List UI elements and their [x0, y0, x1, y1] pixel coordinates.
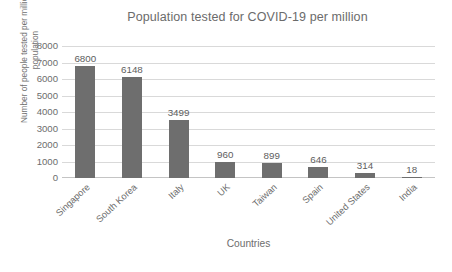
bar-value-label: 960	[217, 149, 233, 160]
bar-value-label: 314	[357, 160, 373, 171]
x-tick-label: Singapore	[54, 182, 92, 218]
x-label-slot: South Korea	[109, 180, 156, 232]
bar-value-label: 6148	[121, 64, 143, 75]
x-label-slot: Singapore	[62, 180, 109, 232]
bar-slot: 960	[202, 46, 249, 178]
x-axis-tick-labels: SingaporeSouth KoreaItalyUKTaiwanSpainUn…	[62, 180, 435, 232]
plot-area: 68006148349996089964631418	[62, 46, 435, 178]
x-tick-label: UK	[216, 182, 232, 198]
x-label-slot: UK	[202, 180, 249, 232]
y-tick-label: 7000	[12, 58, 58, 68]
bar-slot: 18	[388, 46, 435, 178]
chart-title: Population tested for COVID-19 per milli…	[60, 10, 435, 24]
bar[interactable]	[262, 163, 282, 178]
bar-slot: 646	[295, 46, 342, 178]
y-tick-label: 4000	[12, 107, 58, 117]
bar-slot: 899	[249, 46, 296, 178]
x-tick-label: Italy	[166, 182, 185, 201]
x-label-slot: Italy	[155, 180, 202, 232]
bar[interactable]	[169, 120, 189, 178]
y-tick-label: 1000	[12, 157, 58, 167]
x-tick-label: Taiwan	[251, 182, 279, 209]
bar-slot: 3499	[155, 46, 202, 178]
bar[interactable]	[122, 77, 142, 178]
x-tick-label: Spain	[301, 182, 325, 206]
x-label-slot: Taiwan	[249, 180, 296, 232]
x-axis-title: Countries	[62, 238, 435, 249]
bar[interactable]	[75, 66, 95, 178]
bar-slot: 6148	[109, 46, 156, 178]
y-tick-label: 8000	[12, 41, 58, 51]
bar-chart: Population tested for COVID-19 per milli…	[0, 0, 452, 272]
bar[interactable]	[308, 167, 328, 178]
bar-value-label: 899	[264, 150, 280, 161]
bar-value-label: 3499	[168, 107, 190, 118]
bar-slot: 314	[342, 46, 389, 178]
bar-value-label: 18	[406, 164, 417, 175]
bar-slot: 6800	[62, 46, 109, 178]
x-label-slot: Spain	[295, 180, 342, 232]
bar[interactable]	[215, 162, 235, 178]
y-axis-tick-labels: 800070006000500040003000200010000	[8, 46, 58, 178]
y-tick-label: 2000	[12, 140, 58, 150]
y-tick-label: 0	[12, 173, 58, 183]
y-tick-label: 6000	[12, 74, 58, 84]
bar[interactable]	[355, 173, 375, 178]
y-tick-label: 3000	[12, 124, 58, 134]
x-label-slot: India	[388, 180, 435, 232]
bar-value-label: 6800	[74, 53, 96, 64]
bar[interactable]	[402, 177, 422, 179]
x-label-slot: United States	[342, 180, 389, 232]
x-tick-label: India	[397, 182, 419, 203]
bar-value-label: 646	[310, 154, 326, 165]
y-tick-label: 5000	[12, 91, 58, 101]
